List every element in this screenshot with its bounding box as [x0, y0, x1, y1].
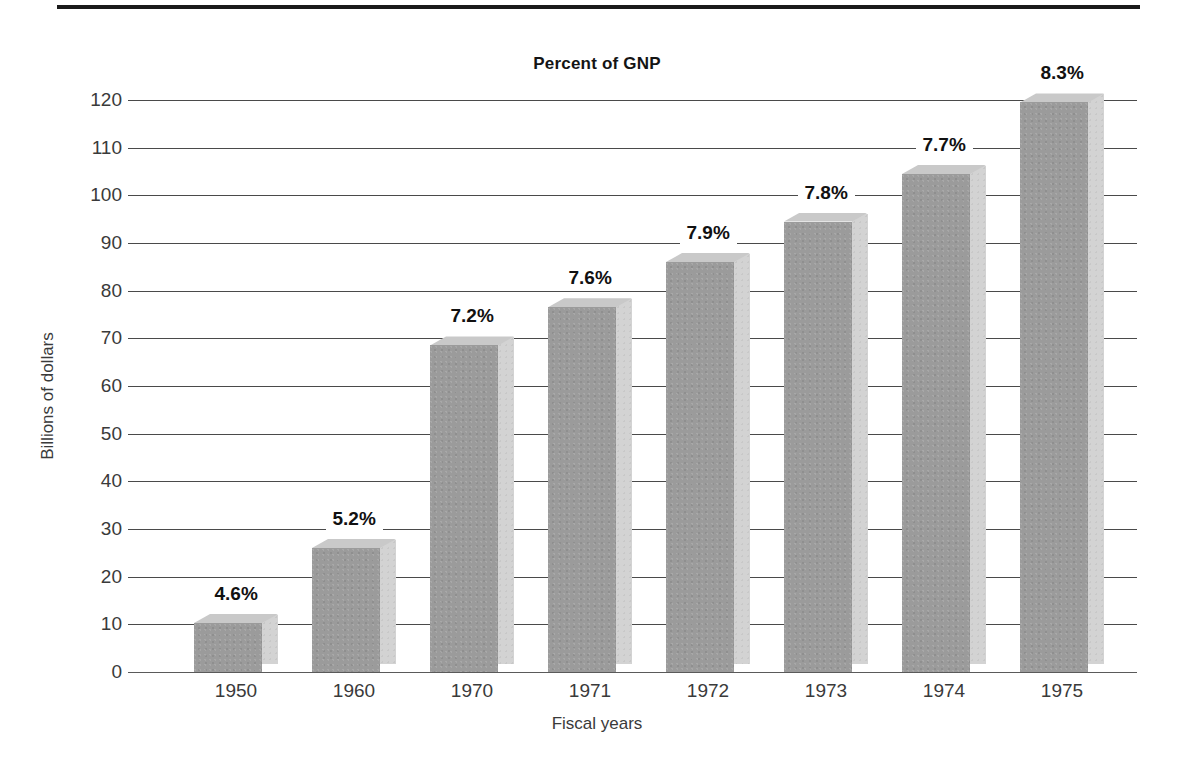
y-axis-title: Billions of dollars [38, 286, 58, 506]
x-axis-baseline [128, 672, 1137, 673]
x-axis-tick-label: 1970 [412, 680, 532, 702]
bar-value-label: 7.7% [916, 134, 973, 157]
bar-front-face [312, 548, 380, 672]
bar-side-face [380, 540, 396, 664]
bar-value-label: 5.2% [326, 508, 383, 531]
y-axis-tick-label: 80 [52, 281, 122, 300]
bar-front-face [194, 623, 262, 672]
bar-front-face [902, 174, 970, 672]
y-axis-tick-label: 50 [52, 424, 122, 443]
x-axis-tick-label: 1975 [1002, 680, 1122, 702]
bar-side-face [262, 615, 278, 664]
bar-value-label: 7.6% [562, 267, 619, 290]
x-axis-title: Fiscal years [0, 714, 1194, 734]
x-axis-tick-label: 1972 [648, 680, 768, 702]
x-axis-tick-label: 1971 [530, 680, 650, 702]
y-axis-tick-label: 100 [52, 185, 122, 204]
bar-value-label: 7.9% [680, 222, 737, 245]
y-axis-tick-label: 70 [52, 328, 122, 347]
x-axis-tick-label: 1974 [884, 680, 1004, 702]
y-axis-tick-label: 120 [52, 90, 122, 109]
y-axis-tick-label: 60 [52, 376, 122, 395]
bar-front-face [430, 345, 498, 672]
bar-front-face [548, 307, 616, 672]
bar-value-label: 4.6% [208, 583, 265, 606]
y-axis-tick-label: 20 [52, 567, 122, 586]
gridline [128, 148, 1137, 149]
y-axis-tick-label: 110 [52, 138, 122, 157]
bar-side-face [498, 337, 514, 664]
y-axis-tick-label: 40 [52, 471, 122, 490]
bar-front-face [1020, 102, 1088, 672]
bar-side-face [970, 166, 986, 664]
gridline [128, 100, 1137, 101]
x-axis-tick-label: 1973 [766, 680, 886, 702]
bar-value-label: 7.8% [798, 182, 855, 205]
bar-side-face [616, 299, 632, 664]
bar-side-face [734, 254, 750, 664]
bar-chart-plot-area: 12011010090807060504030201004.6%19505.2%… [0, 0, 1194, 776]
y-axis-tick-label: 0 [52, 662, 122, 681]
bar-side-face [852, 214, 868, 664]
bar-value-label: 8.3% [1034, 62, 1091, 85]
y-axis-tick-label: 90 [52, 233, 122, 252]
bar-front-face [666, 262, 734, 672]
bar-value-label: 7.2% [444, 305, 501, 328]
bar-side-face [1088, 94, 1104, 664]
bar-front-face [784, 222, 852, 672]
y-axis-tick-label: 10 [52, 614, 122, 633]
x-axis-tick-label: 1950 [176, 680, 296, 702]
x-axis-tick-label: 1960 [294, 680, 414, 702]
y-axis-tick-label: 30 [52, 519, 122, 538]
